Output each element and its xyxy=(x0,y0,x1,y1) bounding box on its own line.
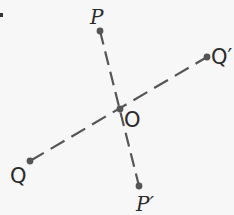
reflection-diagram: P P′ Q Q′ O xyxy=(0,0,234,215)
label-q-prime: Q′ xyxy=(211,45,233,69)
label-p: P xyxy=(89,5,104,29)
label-o: O xyxy=(124,108,141,132)
point-o xyxy=(117,106,124,113)
fragment-marker xyxy=(0,13,3,17)
label-q: Q xyxy=(10,164,27,188)
label-p-prime: P′ xyxy=(135,192,154,215)
point-q xyxy=(27,158,34,165)
point-q-prime xyxy=(204,54,211,61)
point-p-prime xyxy=(136,183,143,190)
